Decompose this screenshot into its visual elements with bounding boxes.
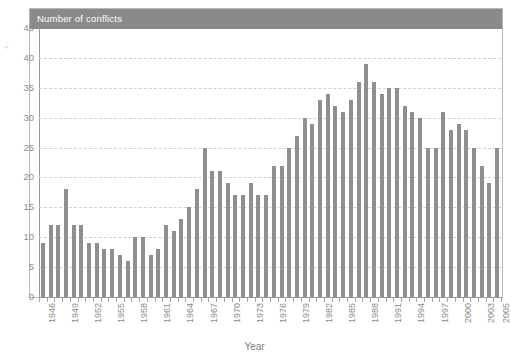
x-tick-label-1964: 1964 — [185, 303, 195, 323]
x-tick — [162, 298, 163, 302]
x-tick-label-1949: 1949 — [70, 303, 80, 323]
bar — [487, 183, 491, 297]
bar — [41, 243, 45, 297]
x-tick-label-1967: 1967 — [209, 303, 219, 323]
x-tick — [347, 298, 348, 302]
y-tick-label-15: 15 — [8, 201, 34, 212]
bar — [372, 82, 376, 297]
x-axis-labels: 1946194919521955195819611964196719701973… — [39, 303, 502, 337]
bar — [357, 82, 361, 297]
bar — [464, 130, 468, 297]
x-tick-label-2005: 2005 — [501, 303, 511, 323]
x-tick — [224, 298, 225, 302]
x-tick — [147, 298, 148, 302]
bar — [141, 237, 145, 297]
x-tick-label-1994: 1994 — [416, 303, 426, 323]
gridline-15 — [39, 207, 501, 208]
x-tick — [270, 298, 271, 302]
x-tick — [178, 298, 179, 302]
bar — [310, 124, 314, 297]
x-tick — [47, 298, 48, 302]
bar — [434, 148, 438, 297]
x-tick — [447, 298, 448, 302]
bar — [387, 88, 391, 297]
bar — [287, 148, 291, 297]
x-tick — [463, 298, 464, 302]
x-tick-label-1997: 1997 — [440, 303, 450, 323]
bar — [303, 118, 307, 297]
x-tick — [378, 298, 379, 302]
x-tick-label-1961: 1961 — [162, 303, 172, 323]
x-tick — [124, 298, 125, 302]
x-tick — [255, 298, 256, 302]
x-tick — [93, 298, 94, 302]
bar — [49, 225, 53, 297]
x-tick — [247, 298, 248, 302]
x-tick-label-1976: 1976 — [278, 303, 288, 323]
bar — [95, 243, 99, 297]
bar — [326, 94, 330, 297]
y-tick-label-5: 5 — [8, 261, 34, 272]
x-tick — [54, 298, 55, 302]
x-tick — [293, 298, 294, 302]
gridline-10 — [39, 237, 501, 238]
bar — [403, 106, 407, 297]
x-tick — [439, 298, 440, 302]
x-tick — [155, 298, 156, 302]
x-tick-label-2000: 2000 — [463, 303, 473, 323]
x-tick-label-1979: 1979 — [301, 303, 311, 323]
x-tick — [339, 298, 340, 302]
bar — [110, 249, 114, 297]
x-tick-label-1973: 1973 — [255, 303, 265, 323]
y-tick-label-45: 45 — [8, 22, 34, 33]
x-tick — [316, 298, 317, 302]
x-tick — [393, 298, 394, 302]
gridline-35 — [39, 88, 501, 89]
x-tick — [216, 298, 217, 302]
x-tick — [493, 298, 494, 302]
bar — [126, 261, 130, 297]
x-tick — [139, 298, 140, 302]
bar — [187, 207, 191, 297]
x-tick — [193, 298, 194, 302]
bar — [495, 148, 499, 297]
x-tick — [62, 298, 63, 302]
x-tick-label-1952: 1952 — [93, 303, 103, 323]
bar — [364, 64, 368, 297]
bar — [441, 112, 445, 297]
bar — [480, 166, 484, 298]
x-tick-label-1982: 1982 — [324, 303, 334, 323]
x-tick — [432, 298, 433, 302]
x-tick — [232, 298, 233, 302]
x-tick — [324, 298, 325, 302]
bar — [164, 225, 168, 297]
x-tick — [116, 298, 117, 302]
bar — [457, 124, 461, 297]
bar — [79, 225, 83, 297]
y-tick-label-20: 20 — [8, 171, 34, 182]
bar — [149, 255, 153, 297]
bar — [72, 225, 76, 297]
bar — [264, 195, 268, 297]
bar — [349, 100, 353, 297]
bar — [56, 225, 60, 297]
x-tick — [416, 298, 417, 302]
x-tick — [101, 298, 102, 302]
bar — [410, 112, 414, 297]
y-tick-label-0: 0 — [8, 291, 34, 302]
x-tick — [424, 298, 425, 302]
bar — [249, 183, 253, 297]
x-tick — [70, 298, 71, 302]
x-tick — [262, 298, 263, 302]
gridline-20 — [39, 177, 501, 178]
y-tick-label-40: 40 — [8, 52, 34, 63]
x-tick-label-1988: 1988 — [370, 303, 380, 323]
bar — [133, 237, 137, 297]
bar — [218, 171, 222, 297]
bar — [449, 130, 453, 297]
bar — [87, 243, 91, 297]
x-tick-label-1955: 1955 — [116, 303, 126, 323]
gridline-5 — [39, 267, 501, 268]
x-tick-label-1958: 1958 — [139, 303, 149, 323]
bar — [210, 171, 214, 297]
